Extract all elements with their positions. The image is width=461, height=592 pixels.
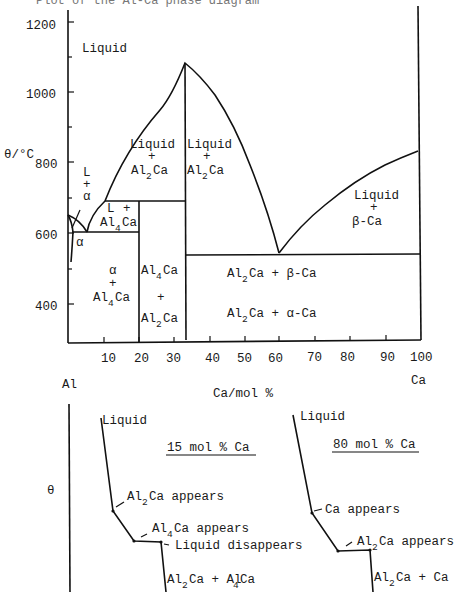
region-al2ca-alpha-ca: Al 2 Ca + α-Ca [227,307,317,325]
svg-text:2: 2 [182,580,188,591]
y-tick-600: 600 [35,229,58,243]
region-l-al4ca: L + Al 4 Ca [100,202,138,234]
svg-text:2: 2 [202,171,208,182]
x-axis-label: Ca/mol % [213,387,274,401]
svg-text:Al: Al [127,490,142,504]
svg-text:β-Ca: β-Ca [352,215,383,229]
svg-text:Al: Al [357,535,372,549]
right-axis [418,6,421,340]
x-tick-30: 30 [166,352,181,366]
svg-text:Ca + Ca: Ca + Ca [396,571,449,585]
svg-text:Ca: Ca [153,164,169,178]
svg-text:Ca appears: Ca appears [174,522,249,536]
svg-text:+: + [123,202,131,216]
cooling-curve-15: Liquid 15 mol % Ca Al 2 Ca appears Al 4 … [101,414,303,592]
x-tick-100: 100 [410,351,433,365]
svg-text:Al: Al [100,216,115,230]
region-liquid: Liquid [82,42,127,56]
curve15-start: Liquid [102,414,147,428]
region-liquid-al2ca-left: Liquid + Al 2 Ca [130,138,175,182]
svg-text:2: 2 [242,274,248,285]
svg-text:Ca: Ca [240,573,256,587]
svg-text:Ca: Ca [209,164,225,178]
svg-text:2: 2 [142,497,148,508]
curve80-arrow1 [314,509,322,511]
svg-text:Ca + β-Ca: Ca + β-Ca [249,267,317,281]
svg-text:Al: Al [227,267,242,281]
region-liquid-al2ca-right: Liquid + Al 2 Ca [187,138,232,182]
svg-text:Ca: Ca [163,264,179,278]
svg-text:Al: Al [141,312,156,326]
svg-text:Al: Al [167,573,182,587]
svg-text:+: + [148,150,156,164]
svg-text:+: + [370,201,378,215]
svg-text:Ca + α-Ca: Ca + α-Ca [249,307,317,321]
region-alpha-al4ca: α + Al 4 Ca [93,264,131,309]
svg-text:Al: Al [152,522,167,536]
svg-text:Al: Al [187,164,202,178]
x-tick-60: 60 [268,352,283,366]
y-tick-1200: 1200 [26,19,56,33]
curve15-arrow3 [164,544,169,545]
svg-text:4: 4 [233,580,239,591]
svg-text:Ca appears: Ca appears [149,490,224,504]
svg-text:α: α [109,264,117,278]
svg-text:L: L [107,202,115,216]
svg-text:+: + [109,277,117,291]
svg-text:Ca appears: Ca appears [325,503,400,517]
svg-text:+: + [157,291,165,305]
svg-text:2: 2 [389,578,395,589]
svg-text:4: 4 [156,271,162,282]
ca-end-label: Ca [411,374,427,388]
figure: Plot of the Al-Ca phase diagram 1200 100… [0,0,461,592]
y-tick-1000: 1000 [26,88,56,102]
svg-text:2: 2 [242,314,248,325]
region-alpha: α [76,236,84,250]
caption-partial: Plot of the Al-Ca phase diagram [36,0,259,8]
y-tick-800: 800 [35,158,58,172]
y-axis-label: θ/°C [4,148,34,162]
x-tick-80: 80 [340,351,355,365]
x-tick-10: 10 [101,352,116,366]
curve80-title: 80 mol % Ca [333,438,416,452]
phase-diagram: 1200 1000 800 600 400 θ/°C 10 20 30 40 5… [4,6,433,401]
al-end-label: Al [62,378,77,392]
x-tick-50: 50 [237,352,252,366]
svg-text:Liquid disappears: Liquid disappears [175,539,303,553]
curve15-title: 15 mol % Ca [167,441,250,455]
svg-text:Al: Al [374,571,389,585]
region-l-alpha: L + α [83,166,91,204]
x-tick-90: 90 [380,351,395,365]
svg-text:Ca appears: Ca appears [379,535,454,549]
alpha-pointer [72,210,80,228]
x-tick-40: 40 [205,352,220,366]
svg-text:Ca: Ca [163,312,179,326]
region-al2ca-beta-ca: Al 2 Ca + β-Ca [227,267,317,285]
cooling-curves: θ Liquid 15 mol % Ca Al 2 Ca appears Al … [47,404,454,592]
svg-text:4: 4 [167,529,173,540]
svg-text:2: 2 [146,171,152,182]
theta-axis [69,404,70,592]
svg-text:Al: Al [141,264,156,278]
curve80-arrow2 [346,542,352,546]
theta-axis-label: θ [47,484,55,498]
cooling-curve-80: Liquid 80 mol % Ca Ca appears Al 2 Ca ap… [293,410,454,592]
svg-text:+: + [203,150,211,164]
curve15-arrow1 [116,502,124,507]
svg-text:α: α [83,190,91,204]
svg-text:Al: Al [93,291,108,305]
svg-text:2: 2 [372,542,378,553]
curve15-arrow2 [141,534,147,537]
x-tick-20: 20 [134,352,149,366]
svg-text:2: 2 [156,319,162,330]
y-tick-400: 400 [35,300,58,314]
eutectic-line-545 [186,254,420,255]
region-al4ca-al2ca: Al 4 Ca + Al 2 Ca [141,264,179,330]
svg-text:Ca: Ca [122,216,138,230]
curve80-start: Liquid [300,410,345,424]
svg-text:Al: Al [227,307,242,321]
svg-text:Al: Al [131,164,146,178]
svg-text:4: 4 [108,298,114,309]
x-tick-70: 70 [307,351,322,365]
svg-text:Ca: Ca [115,291,131,305]
